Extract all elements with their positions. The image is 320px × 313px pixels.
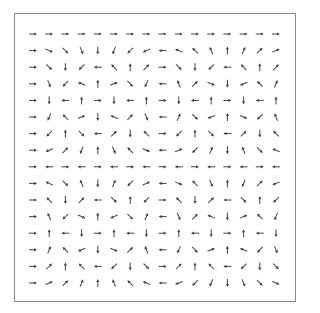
vector-arrow-icon	[46, 113, 52, 122]
vector-arrow-icon	[256, 146, 264, 154]
vector-arrow-icon	[207, 130, 215, 138]
vector-arrow-icon	[274, 229, 277, 237]
vector-arrow-icon	[256, 232, 264, 235]
vector-arrow-icon	[272, 63, 280, 71]
vector-arrow-icon	[78, 165, 86, 168]
vector-arrow-icon	[79, 179, 85, 188]
vector-arrow-icon	[96, 47, 99, 55]
vector-arrow-icon	[226, 246, 229, 254]
vector-arrow-icon	[29, 215, 37, 218]
vector-arrow-icon	[46, 79, 52, 88]
vector-arrow-icon	[45, 180, 54, 186]
vector-arrow-icon	[208, 279, 214, 288]
vector-arrow-icon	[272, 130, 280, 138]
vector-arrow-icon	[94, 232, 102, 235]
vector-arrow-icon	[61, 179, 69, 187]
vector-arrow-icon	[175, 32, 183, 35]
vector-arrow-icon	[110, 63, 118, 71]
vector-arrow-icon	[96, 80, 99, 88]
vector-arrow-icon	[175, 262, 183, 270]
vector-arrow-icon	[80, 229, 83, 237]
vector-arrow-icon	[272, 48, 281, 54]
vector-arrow-icon	[45, 262, 53, 270]
vector-arrow-icon	[110, 165, 118, 168]
vector-arrow-icon	[29, 82, 37, 85]
vector-arrow-icon	[159, 232, 167, 235]
vector-arrow-icon	[207, 63, 215, 71]
vector-arrow-icon	[61, 232, 69, 235]
vector-arrow-icon	[191, 80, 199, 88]
vector-arrow-icon	[159, 165, 167, 168]
vector-arrow-icon	[94, 66, 102, 69]
vector-arrow-icon	[159, 66, 167, 69]
vector-arrow-icon	[96, 113, 99, 121]
vector-arrow-icon	[159, 265, 167, 268]
vector-arrow-icon	[142, 180, 151, 186]
vector-arrow-icon	[111, 279, 117, 288]
vector-arrow-icon	[61, 80, 69, 88]
vector-arrow-icon	[142, 262, 150, 270]
vector-arrow-icon	[208, 179, 214, 188]
vector-arrow-icon	[77, 247, 86, 253]
vector-arrow-icon	[126, 279, 134, 287]
vector-arrow-icon	[242, 96, 245, 104]
vector-arrow-icon	[174, 280, 183, 286]
vector-arrow-icon	[256, 165, 264, 168]
vector-arrow-icon	[240, 196, 248, 204]
vector-arrow-icon	[226, 80, 229, 88]
vector-arrow-icon	[191, 113, 199, 121]
vector-arrow-icon	[175, 196, 183, 204]
vector-arrow-icon	[64, 63, 67, 71]
vector-arrow-icon	[112, 96, 115, 104]
vector-arrow-icon	[29, 265, 37, 268]
vector-arrow-icon	[143, 113, 149, 122]
vector-arrow-icon	[110, 214, 119, 220]
vector-arrow-icon	[45, 147, 54, 153]
vector-arrow-icon	[226, 213, 229, 221]
vector-arrow-icon	[239, 214, 248, 220]
vector-arrow-icon	[159, 99, 167, 102]
vector-arrow-icon	[142, 165, 150, 168]
vector-arrow-icon	[126, 80, 134, 88]
vector-arrow-icon	[29, 198, 37, 201]
vector-arrow-icon	[48, 96, 51, 104]
vector-arrow-icon	[223, 232, 231, 235]
vector-arrow-icon	[256, 80, 264, 88]
vector-arrow-icon	[256, 113, 264, 121]
vector-arrow-icon	[193, 130, 196, 138]
vector-arrow-icon	[191, 232, 199, 235]
vector-arrow-icon	[191, 246, 199, 254]
vector-arrow-icon	[78, 196, 86, 204]
vector-arrow-icon	[273, 245, 279, 254]
vector-arrow-icon	[129, 262, 132, 270]
vector-arrow-icon	[191, 165, 199, 168]
vector-arrow-icon	[142, 63, 150, 71]
vector-arrow-icon	[241, 46, 247, 55]
vector-arrow-icon	[45, 63, 53, 71]
vector-arrow-icon	[207, 165, 215, 168]
vector-arrow-icon	[126, 213, 134, 221]
vector-arrow-icon	[78, 262, 86, 270]
vector-arrow-icon	[79, 46, 85, 55]
vector-field	[29, 32, 280, 287]
vector-arrow-icon	[272, 262, 280, 270]
vector-arrow-icon	[45, 280, 54, 286]
vector-arrow-icon	[256, 99, 264, 102]
vector-arrow-icon	[45, 130, 53, 138]
vector-arrow-icon	[208, 46, 214, 55]
vector-arrow-icon	[111, 146, 117, 155]
vector-arrow-icon	[94, 198, 102, 201]
vector-arrow-icon	[272, 180, 281, 186]
vector-arrow-icon	[29, 99, 37, 102]
vector-arrow-icon	[191, 279, 199, 287]
vector-arrow-icon	[159, 281, 167, 284]
vector-arrow-icon	[79, 279, 85, 288]
vector-arrow-icon	[191, 179, 199, 187]
vector-arrow-icon	[175, 165, 183, 168]
vector-arrow-icon	[77, 214, 86, 220]
vector-arrow-icon	[46, 245, 52, 254]
vector-arrow-icon	[226, 279, 229, 287]
vector-arrow-icon	[175, 130, 183, 138]
vector-arrow-icon	[126, 47, 134, 55]
vector-arrow-icon	[126, 179, 134, 187]
